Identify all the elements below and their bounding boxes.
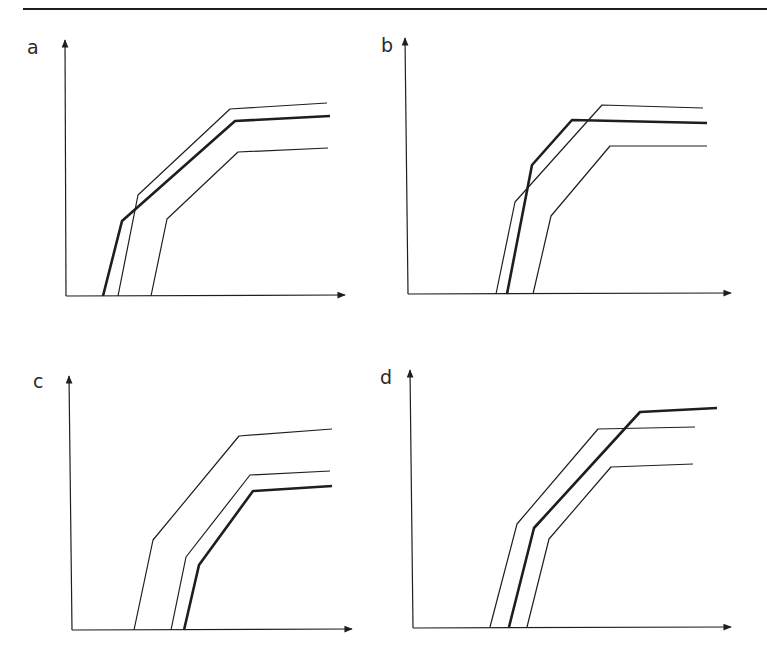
panel-d-line-thin-lower	[527, 464, 693, 627]
panel-c-line-thick	[184, 486, 332, 630]
panel-b-series	[496, 105, 707, 294]
panel-a-line-thick	[103, 116, 330, 296]
panel-b-y-axis	[405, 38, 408, 294]
panel-b-x-axis	[408, 293, 731, 294]
panel-a-y-axis	[65, 40, 66, 296]
panel-c-x-axis	[72, 629, 352, 630]
panel-b-axes	[405, 38, 731, 294]
panel-d-x-axis	[413, 627, 731, 628]
panel-b-label: b	[381, 36, 393, 55]
panel-b-line-thin-lower	[533, 146, 707, 294]
panel-a-axes	[65, 40, 345, 296]
panel-a-series	[103, 103, 330, 296]
panel-d-y-axis	[410, 370, 413, 628]
panel-d-label: d	[380, 368, 392, 387]
figure: a b c d	[0, 0, 767, 660]
panel-c-label: c	[33, 372, 43, 391]
panel-a-x-axis	[66, 295, 345, 296]
panel-d-line-thin-upper	[490, 427, 695, 627]
panel-b-line-thin-upper	[496, 105, 703, 294]
panel-c-series	[134, 429, 332, 630]
panel-d-line-thick	[509, 408, 717, 627]
panel-c-line-thin-upper	[134, 429, 332, 630]
panel-c-y-axis	[69, 376, 72, 630]
panel-c-axes	[69, 376, 352, 630]
panel-d-series	[490, 408, 717, 627]
panel-a-label: a	[27, 38, 39, 57]
figure-canvas	[0, 0, 767, 660]
